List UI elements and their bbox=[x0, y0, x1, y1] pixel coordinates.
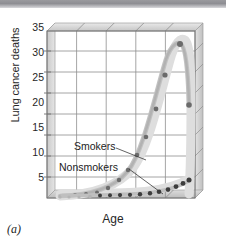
chart-plot-area bbox=[0, 8, 226, 243]
figure-caption: (a) bbox=[7, 222, 21, 237]
x-axis-title: Age bbox=[0, 212, 226, 226]
figure-panel: Lung cancer deaths 35 30 25 20 15 10 5 bbox=[0, 8, 226, 243]
plot-right-wall bbox=[195, 23, 203, 198]
annotation-smokers: Smokers bbox=[74, 140, 115, 152]
annotation-nonsmokers: Nonsmokers bbox=[59, 161, 118, 173]
plot-top-wall bbox=[47, 23, 203, 31]
top-gray-band bbox=[0, 0, 226, 8]
plot-left-wall bbox=[47, 23, 55, 198]
